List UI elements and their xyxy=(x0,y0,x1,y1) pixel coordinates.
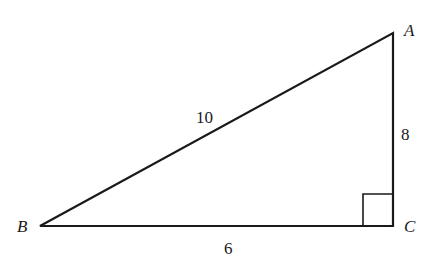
side-label-bc: 6 xyxy=(224,239,233,258)
triangle-diagram: A B C 10 8 6 xyxy=(0,0,437,265)
right-angle-marker xyxy=(363,194,393,226)
side-label-ab: 10 xyxy=(196,108,213,127)
vertex-label-b: B xyxy=(17,217,28,236)
triangle-abc xyxy=(40,33,393,226)
vertex-label-a: A xyxy=(403,21,415,40)
vertex-label-c: C xyxy=(404,217,416,236)
side-label-ac: 8 xyxy=(401,125,410,144)
